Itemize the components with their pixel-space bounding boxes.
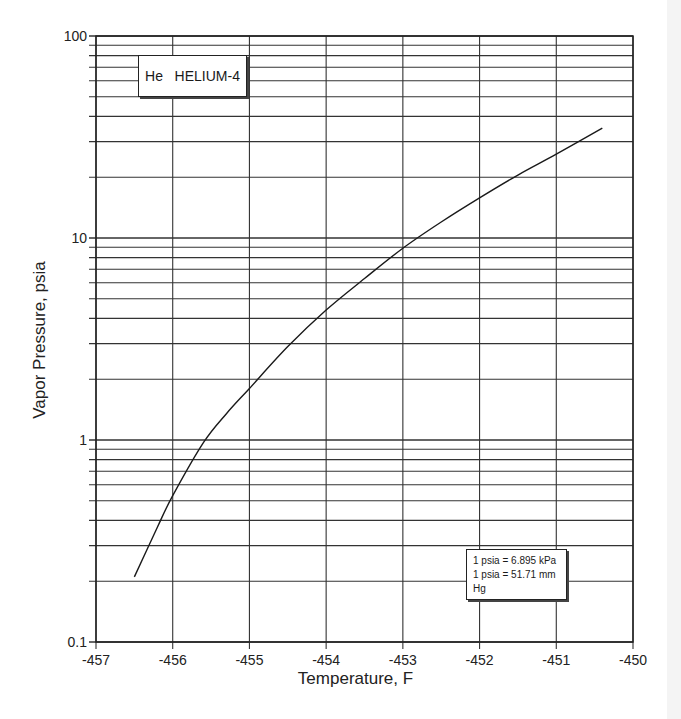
y-tick-label: 0.1 bbox=[68, 634, 88, 650]
y-tick-label: 100 bbox=[64, 28, 88, 44]
x-tick-label: -452 bbox=[466, 652, 494, 668]
element-name: HELIUM-4 bbox=[175, 68, 240, 84]
chart-title-box: He HELIUM-4 bbox=[138, 55, 247, 97]
x-tick-label: -450 bbox=[619, 652, 647, 668]
x-tick-label: -457 bbox=[82, 652, 110, 668]
x-tick-label: -454 bbox=[312, 652, 340, 668]
x-tick-label: -451 bbox=[542, 652, 570, 668]
unit-conversion-box: 1 psia = 6.895 kPa 1 psia = 51.71 mm Hg bbox=[466, 549, 567, 600]
vapor-pressure-chart: 0.1110100-457-456-455-454-453-452-451-45… bbox=[0, 0, 681, 719]
y-tick-label: 10 bbox=[71, 230, 87, 246]
vapor-pressure-curve bbox=[134, 128, 602, 577]
conversion-mmhg: 1 psia = 51.71 mm Hg bbox=[473, 568, 566, 596]
x-tick-label: -453 bbox=[389, 652, 417, 668]
x-tick-label: -455 bbox=[235, 652, 263, 668]
y-axis-title: Vapor Pressure, psia bbox=[30, 261, 50, 418]
x-tick-label: -456 bbox=[159, 652, 187, 668]
x-axis-title: Temperature, F bbox=[0, 669, 681, 689]
element-symbol: He bbox=[145, 68, 163, 84]
y-tick-label: 1 bbox=[79, 432, 87, 448]
conversion-kpa: 1 psia = 6.895 kPa bbox=[473, 554, 566, 568]
